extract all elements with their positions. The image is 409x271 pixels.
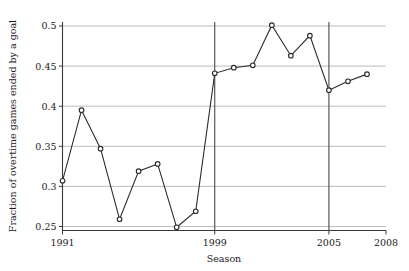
x-tick-label-0: 1991 [50, 237, 74, 248]
data-point-1997 [174, 225, 179, 230]
y-tick-label-3: 0.4 [41, 101, 56, 112]
y-tick-label-0: 0.25 [35, 221, 56, 232]
y-tick-label-1: 0.3 [41, 181, 56, 192]
data-point-1992 [79, 108, 84, 113]
y-tick-label-5: 0.5 [41, 20, 56, 31]
data-point-1998 [193, 209, 198, 214]
data-point-1996 [155, 162, 160, 167]
y-tick-label-4: 0.45 [35, 61, 56, 72]
data-point-2004 [308, 33, 313, 38]
data-point-2006 [346, 79, 351, 84]
x-tick-label-3: 2008 [374, 237, 398, 248]
data-point-2007 [365, 72, 370, 77]
y-tick-label-2: 0.35 [35, 141, 56, 152]
data-point-2002 [270, 23, 275, 28]
x-tick-label-1: 1999 [203, 237, 227, 248]
y-axis-title: Fraction of overtime games ended by a go… [7, 20, 18, 232]
data-point-1991 [60, 178, 65, 183]
line-chart: 0.250.30.350.40.450.5 1991199920052008 S… [0, 0, 409, 271]
data-point-1995 [136, 169, 141, 174]
x-axis-title: Season [207, 253, 242, 264]
data-point-2003 [289, 53, 294, 58]
data-point-1993 [98, 146, 103, 151]
chart-figure: 0.250.30.350.40.450.5 1991199920052008 S… [0, 0, 409, 271]
x-tick-label-2: 2005 [317, 237, 341, 248]
data-point-2001 [250, 63, 255, 68]
data-point-2005 [327, 88, 332, 93]
data-point-2000 [231, 65, 236, 70]
data-point-1999 [212, 71, 217, 76]
data-point-1994 [117, 217, 122, 222]
